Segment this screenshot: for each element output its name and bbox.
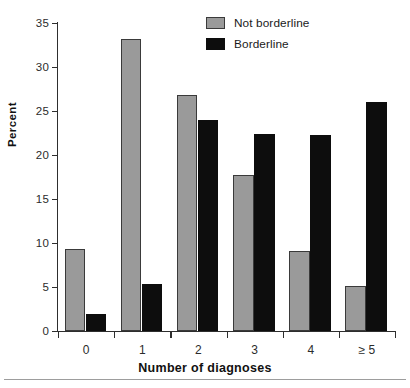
y-axis-tick-label: 30: [36, 61, 49, 73]
bar-not-borderline: [121, 39, 142, 331]
bar-borderline: [310, 135, 331, 331]
y-axis-tick: [52, 243, 58, 244]
bar-not-borderline: [289, 251, 310, 331]
bar-not-borderline: [65, 249, 86, 331]
black-swatch-icon: [206, 38, 225, 50]
bar-borderline: [86, 314, 107, 331]
x-axis-tick: [395, 331, 396, 338]
y-axis-tick: [52, 155, 58, 156]
y-axis-tick: [52, 67, 58, 68]
footer-divider: [4, 379, 406, 380]
y-axis-title: Percent: [6, 102, 18, 147]
chart-legend: Not borderline Borderline: [206, 14, 310, 56]
bar-chart-figure: 0510152025303501234≥ 5 Percent Number of…: [0, 0, 410, 388]
bar-not-borderline: [233, 175, 254, 331]
x-axis-tick-label: 0: [83, 343, 90, 357]
bar-not-borderline: [177, 95, 198, 331]
x-axis-tick-label: 2: [195, 343, 202, 357]
y-axis-tick: [52, 23, 58, 24]
bar-borderline: [142, 284, 163, 331]
x-axis-tick-label: 1: [139, 343, 146, 357]
bar-not-borderline: [345, 286, 366, 331]
y-axis-tick: [52, 199, 58, 200]
y-axis-tick-label: 15: [36, 193, 49, 205]
legend-item-borderline: Borderline: [206, 35, 310, 52]
y-axis-tick-label: 35: [36, 17, 49, 29]
y-axis-tick-label: 20: [36, 149, 49, 161]
y-axis-tick-label: 10: [36, 237, 49, 249]
x-axis-tick-label: ≥ 5: [359, 343, 376, 357]
y-axis-tick: [52, 287, 58, 288]
legend-label: Not borderline: [234, 16, 310, 30]
bar-borderline: [254, 134, 275, 331]
x-axis-tick: [58, 331, 59, 338]
x-axis-title: Number of diagnoses: [0, 361, 410, 375]
y-axis-tick-label: 25: [36, 105, 49, 117]
y-axis-tick: [52, 111, 58, 112]
legend-item-not-borderline: Not borderline: [206, 14, 310, 31]
y-axis-tick-label: 5: [42, 281, 49, 293]
x-axis-tick: [227, 331, 228, 338]
x-axis-tick: [170, 331, 171, 338]
legend-label: Borderline: [234, 37, 289, 51]
x-axis-tick-label: 4: [307, 343, 314, 357]
x-axis-tick: [114, 331, 115, 338]
y-axis-tick-label: 0: [42, 325, 49, 337]
bar-borderline: [366, 102, 387, 331]
gray-swatch-icon: [206, 17, 225, 29]
x-axis-tick: [339, 331, 340, 338]
plot-area: 0510152025303501234≥ 5: [58, 23, 395, 331]
x-axis-tick-label: 3: [251, 343, 258, 357]
bar-borderline: [198, 120, 219, 331]
x-axis-tick: [283, 331, 284, 338]
